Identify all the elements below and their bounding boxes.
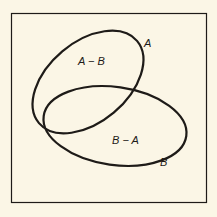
set-a-ellipse <box>13 10 162 154</box>
set-b-label: B <box>160 156 167 168</box>
set-b-ellipse <box>38 77 191 174</box>
a-minus-b-label: A − B <box>77 55 105 67</box>
universe-frame <box>12 14 207 203</box>
b-minus-a-label: B − A <box>112 134 139 146</box>
venn-diagram: A A − B B − A B <box>0 0 217 217</box>
set-a-label: A <box>143 37 151 49</box>
venn-diagram-canvas: A A − B B − A B <box>0 0 217 217</box>
